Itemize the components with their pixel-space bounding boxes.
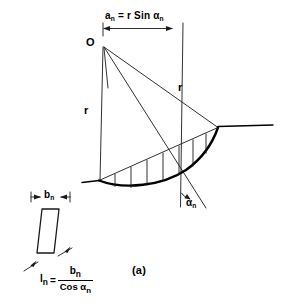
inset-formula-equals: = (50, 275, 56, 286)
construction-stub-line (104, 48, 108, 88)
top-dimension-line (103, 23, 173, 36)
figure-container: an = r Sin αn O r r αn bn ln = bn Cos αn… (0, 0, 286, 308)
inset-leader-line-left (24, 261, 38, 272)
inset-leader-line-right (58, 247, 72, 257)
top-dimension-label: an = r Sin αn (105, 11, 164, 21)
ground-baseline-left (82, 181, 99, 183)
extension-vertical-line (181, 23, 184, 207)
slice-chord-line (99, 128, 218, 181)
inset-parallelogram (37, 209, 59, 253)
top-dimension-angle: αn (153, 10, 164, 21)
apex-label-o: O (86, 37, 95, 48)
top-dimension-equals: = (115, 10, 127, 21)
inset-formula-numerator: bn (68, 266, 83, 280)
inset-formula-lhs: ln (40, 273, 48, 287)
top-dimension-symbol: an (105, 10, 115, 21)
figure-caption: (a) (132, 265, 146, 276)
oblique-radius-line (104, 47, 218, 128)
angle-label-alpha-n: αn (186, 198, 197, 208)
figure-drawing (0, 0, 286, 308)
inset-formula-fraction: bn Cos αn (58, 266, 93, 295)
inset-formula-denominator: Cos αn (58, 281, 93, 295)
inset-width-label-bn: bn (44, 190, 55, 200)
ground-line-right (218, 125, 273, 127)
slice-division-lines (115, 134, 206, 188)
radius-label-right: r (178, 82, 182, 93)
top-dimension-expression: r Sin (127, 10, 150, 21)
failure-arc (99, 128, 218, 186)
inset-formula-ln: ln = bn Cos αn (40, 266, 93, 295)
vertical-radius-line (100, 47, 103, 181)
radius-label-left: r (84, 105, 88, 116)
